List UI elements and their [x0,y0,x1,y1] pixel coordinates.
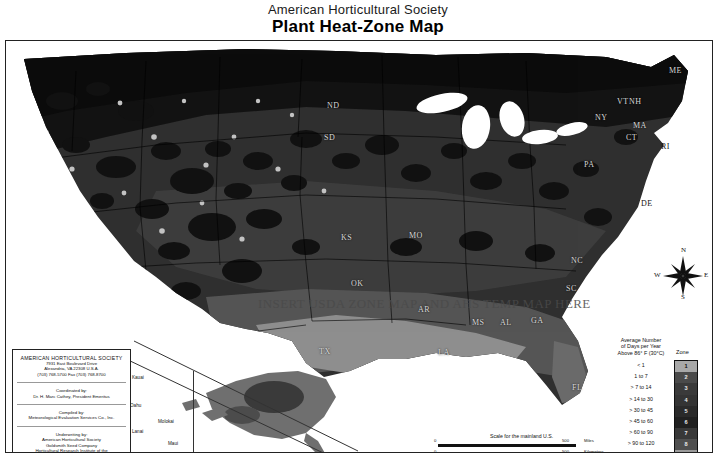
mainland-km-unit: Kilometers [584,449,604,453]
state-label-tx: TX [319,347,331,356]
legend-zone-swatch-column: 123456789101112 [674,360,698,453]
state-label-me: ME [669,66,682,75]
hawaii-island-label-oahu: Oahu [130,403,141,408]
legend-range-column: < 11 to 7> 7 to 14> 14 to 30> 30 to 45> … [612,360,670,453]
state-label-fl: FL [572,383,582,392]
state-label-ny: NY [595,113,608,122]
society-phone: (703) 768-5700 Fax (703) 768-8700 [16,372,127,377]
state-label-ma: MA [633,121,647,130]
state-label-nh: NH [629,97,642,106]
info-divider-2 [17,404,126,405]
hawaii-inset: KauaiOahuMolokaiLanaiMauiHawaii Scale fo… [130,367,192,453]
legend-range-row: > 14 to 30 [612,394,670,405]
state-label-ga: GA [531,316,544,325]
map-legend: Average Number of Days per Year Above 86… [612,337,698,453]
title-organization: American Horticultural Society [0,2,716,17]
map-title-block: American Horticultural Society Plant Hea… [0,2,716,37]
alaska-scale-caption: Scale for Alaska [196,451,266,453]
mainland-km-zero: 0 [434,449,436,453]
watermark-note: INSERT USDA ZONE MAP AND AHS TEMP MAP HE… [258,296,538,312]
state-label-vt: VT [617,97,629,106]
hawaii-island-label-kauai: Kauai [132,375,144,380]
state-label-ar: AR [418,305,430,314]
hawaii-island-label-molokai: Molokai [158,419,174,424]
state-label-la: LA [438,348,450,357]
legend-zone-swatch: 9 [675,450,697,453]
state-label-ri: RI [661,142,670,151]
hawaii-island-label-lanai: Lanai [132,429,143,434]
legend-range-row: > 7 to 14 [612,382,670,393]
mainland-scale-miles: 0 500 Miles [434,439,609,450]
legend-zone-swatch: 7 [675,428,697,439]
coordinated-name: Dr. H. Marc Cathey, President Emeritus [16,394,127,399]
compass-label-east: E [704,271,708,279]
legend-range-row: < 1 [612,360,670,371]
legend-range-row: 1 to 7 [612,371,670,382]
legend-range-row: > 90 to 120 [612,438,670,449]
underwriter-item: Horticultural Research Institute of the [16,448,127,453]
state-label-sd: SD [324,133,335,142]
compass-label-south: S [681,293,685,301]
compass-label-north: N [681,246,686,254]
plant-heat-zone-map-page: American Horticultural Society Plant Hea… [0,0,716,456]
mainland-scale-kilometers: 0 500 Kilometers [434,450,609,453]
legend-zone-swatch: 8 [675,439,697,450]
underwriter-list: American Horticultural SocietyGoldsmith … [16,437,127,453]
credits-info-box: AMERICAN HORTICULTURAL SOCIETY 7931 East… [12,349,131,453]
state-label-nd: ND [327,101,340,110]
title-map-name: Plant Heat-Zone Map [0,17,716,37]
state-label-sc: SC [566,284,577,293]
compiled-block: Compiled by: Meteorological Evaluation S… [13,408,130,423]
compass-label-west: W [654,271,661,279]
compiled-name: Meteorological Evaluation Services Co., … [16,415,127,420]
mainland-miles-unit: Miles [584,438,594,443]
state-label-de: DE [641,199,653,208]
legend-zone-swatch: 5 [675,406,697,417]
legend-range-row: > 45 to 60 [612,416,670,427]
state-label-mo: MO [409,231,423,240]
legend-zone-swatch: 2 [675,372,697,383]
society-block: AMERICAN HORTICULTURAL SOCIETY 7931 East… [13,350,130,379]
legend-zone-swatch: 1 [675,361,697,372]
map-frame: INSERT USDA ZONE MAP AND AHS TEMP MAP HE… [5,40,713,453]
state-label-ok: OK [351,279,364,288]
legend-header: Average Number of Days per Year Above 86… [612,337,670,356]
info-divider-3 [17,426,126,427]
mainland-scale-bar: Scale for the mainland U.S. 0 500 Miles … [434,433,609,453]
hawaii-island-label-maui: Maui [168,441,178,446]
mainland-miles-max: 500 [562,438,569,443]
info-divider-1 [17,382,126,383]
underwriting-block: Underwriting by: American Horticultural … [13,430,130,453]
coordinated-block: Coordinated by: Dr. H. Marc Cathey, Pres… [13,386,130,401]
state-label-pa: PA [584,160,595,169]
legend-zone-swatch: 3 [675,383,697,394]
legend-header-line3: Above 86° F (30°C) [612,350,670,356]
mainland-km-max: 500 [562,449,569,453]
state-label-ct: CT [626,133,637,142]
inset-divider [193,371,194,453]
state-label-ks: KS [341,233,352,242]
legend-zone-swatch: 4 [675,395,697,406]
mainland-miles-zero: 0 [434,438,436,443]
state-label-al: AL [500,318,512,327]
alaska-inset: Scale for Alaska 0 500 Miles 0 500 Kilom… [196,367,316,453]
state-label-nc: NC [571,256,583,265]
legend-zone-swatch: 6 [675,417,697,428]
legend-range-row: > 60 to 90 [612,427,670,438]
legend-range-row: > 120 to 150 [612,449,670,453]
state-label-ms: MS [472,318,485,327]
hawaii-scale-caption: Scale for Hawaii [128,451,192,453]
compass-rose: N S W E [654,247,712,305]
legend-range-row: > 30 to 45 [612,405,670,416]
legend-zone-column-header: Zone [676,349,689,355]
